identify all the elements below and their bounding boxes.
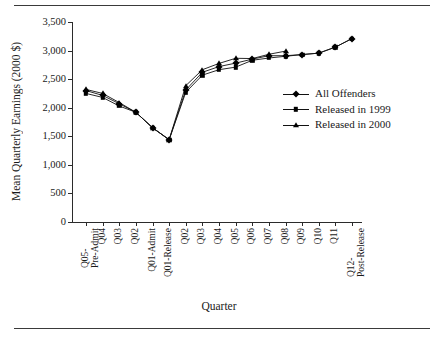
square-marker-icon [233, 65, 237, 69]
triangle-marker-icon [266, 52, 272, 57]
x-tick [86, 222, 87, 226]
legend-label: Released in 1999 [315, 102, 391, 118]
legend-entry: All Offenders [283, 86, 391, 102]
square-marker-icon [84, 91, 88, 95]
square-marker-icon [300, 52, 304, 56]
x-tick [335, 222, 336, 226]
x-tick-label: Q01-Release [164, 228, 174, 277]
triangle-marker-icon [283, 48, 289, 53]
x-tick-label: Q10 [314, 228, 324, 244]
y-tick-label: 3,000 [42, 45, 66, 56]
legend-entry: Released in 1999 [283, 102, 391, 118]
x-tick-label: Q05 [231, 228, 241, 244]
x-tick-label: Q04 [98, 228, 108, 244]
triangle-marker-icon [150, 125, 156, 130]
square-marker-icon [294, 107, 298, 111]
x-tick [186, 222, 187, 226]
bottom-rule [14, 328, 430, 329]
square-marker-icon [317, 51, 321, 55]
x-tick-label: Q07 [264, 228, 274, 244]
legend-label: Released in 2000 [315, 117, 391, 133]
x-tick [153, 222, 154, 226]
x-tick-label: Q08 [281, 228, 291, 244]
top-rule [14, 5, 430, 6]
triangle-marker-icon [133, 110, 139, 115]
x-tick [286, 222, 287, 226]
square-marker-icon [217, 68, 221, 72]
legend-entry: Released in 2000 [283, 117, 391, 133]
x-tick-label: Q12-Post-Release [347, 228, 367, 277]
triangle-marker-icon [199, 67, 205, 72]
figure-chart: Mean Quarterly Earnings (2000 $) 05001,0… [0, 0, 438, 342]
y-tick-label: 1,000 [42, 160, 66, 171]
y-tick [68, 222, 72, 223]
x-tick-label: Q03 [197, 228, 207, 244]
x-tick [119, 222, 120, 226]
y-tick-label: 2,500 [42, 74, 66, 85]
x-tick-label: Q04 [214, 228, 224, 244]
triangle-marker-icon [166, 137, 172, 142]
diamond-marker-icon [292, 90, 299, 97]
x-tick-label: Q03 [114, 228, 124, 244]
triangle-marker-icon [216, 61, 222, 66]
x-tick [302, 222, 303, 226]
x-tick [319, 222, 320, 226]
x-tick-label: Q02 [181, 228, 191, 244]
triangle-marker-icon [249, 56, 255, 61]
x-tick-label: Q11 [330, 228, 340, 244]
x-tick [202, 222, 203, 226]
x-tick-label: Q09 [297, 228, 307, 244]
triangle-marker-icon [183, 83, 189, 88]
x-tick [219, 222, 220, 226]
x-tick [103, 222, 104, 226]
y-tick-label: 500 [50, 188, 66, 199]
square-marker-icon [333, 45, 337, 49]
x-tick [169, 222, 170, 226]
square-marker-icon [350, 36, 354, 40]
triangle-marker-icon [83, 87, 89, 92]
x-tick [252, 222, 253, 226]
y-tick-label: 1,500 [42, 131, 66, 142]
x-tick [269, 222, 270, 226]
y-tick-label: 0 [61, 217, 66, 228]
square-marker-icon [200, 73, 204, 77]
x-axis-title: Quarter [0, 300, 438, 312]
x-tick [136, 222, 137, 226]
x-tick-label: Q02 [131, 228, 141, 244]
chart-legend: All OffendersReleased in 1999Released in… [283, 86, 391, 133]
x-tick [236, 222, 237, 226]
triangle-marker-icon [116, 100, 122, 105]
legend-swatch [283, 120, 309, 131]
x-tick [352, 222, 353, 226]
x-tick-label: Q01-Admit [148, 228, 158, 272]
y-tick-label: 2,000 [42, 102, 66, 113]
legend-swatch [283, 104, 309, 115]
triangle-marker-icon [233, 56, 239, 61]
square-marker-icon [184, 90, 188, 94]
square-marker-icon [100, 95, 104, 99]
triangle-marker-icon [293, 122, 299, 127]
y-axis-title: Mean Quarterly Earnings (2000 $) [8, 18, 24, 224]
legend-swatch [283, 88, 309, 99]
x-tick-label: Q06 [247, 228, 257, 244]
square-marker-icon [283, 54, 287, 58]
triangle-marker-icon [100, 91, 106, 96]
legend-label: All Offenders [315, 86, 376, 102]
y-tick-label: 3,500 [42, 17, 66, 28]
series-line [86, 51, 286, 140]
